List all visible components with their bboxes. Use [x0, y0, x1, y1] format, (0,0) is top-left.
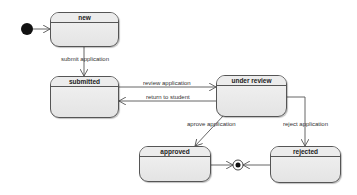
state-submitted-title: submitted: [51, 77, 118, 87]
state-submitted[interactable]: submitted: [50, 76, 119, 118]
state-under-review[interactable]: under review: [216, 75, 287, 117]
submit-label: submit application: [61, 56, 109, 62]
state-rejected-title: rejected: [271, 147, 340, 157]
approve-label: aprove application: [187, 121, 236, 127]
state-new[interactable]: new: [50, 12, 119, 47]
return-label: return to student: [146, 94, 190, 100]
approve-transition: [195, 115, 224, 146]
state-approved-title: approved: [140, 147, 210, 157]
state-rejected[interactable]: rejected: [270, 146, 341, 183]
final-node-core: [236, 163, 241, 168]
state-new-title: new: [51, 13, 118, 23]
reject-label: reject application: [283, 121, 328, 127]
state-approved[interactable]: approved: [139, 146, 211, 182]
review-label: review application: [143, 80, 191, 86]
state-under-review-title: under review: [217, 76, 286, 86]
initial-node: [21, 23, 33, 35]
state-diagram: new submitted under review approved reje…: [0, 0, 357, 195]
